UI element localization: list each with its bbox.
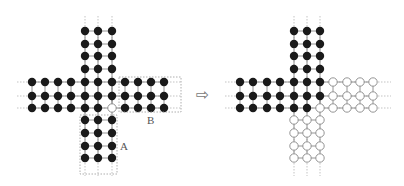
node-filled [290,52,298,60]
node-filled [147,78,155,86]
node-filled [94,142,102,150]
node-filled [303,78,311,86]
node-filled [236,92,244,100]
node-filled [54,104,62,112]
node-open [343,104,351,112]
node-filled [263,104,271,112]
node-filled [147,104,155,112]
node-filled [303,52,311,60]
node-filled [316,78,324,86]
node-filled [263,92,271,100]
node-filled [290,104,298,112]
node-open [316,129,324,137]
node-filled [94,92,102,100]
node-filled [81,154,89,162]
node-filled [263,78,271,86]
node-open [329,104,337,112]
node-open [356,104,364,112]
node-filled [81,129,89,137]
node-filled [28,78,36,86]
node-filled [276,78,284,86]
node-filled [94,78,102,86]
node-filled [316,65,324,73]
node-open [290,116,298,124]
node-open [356,92,364,100]
node-filled [94,129,102,137]
node-filled [316,92,324,100]
node-open [303,116,311,124]
node-filled [67,78,75,86]
node-filled [147,92,155,100]
node-filled [160,78,168,86]
node-filled [290,65,298,73]
node-filled [94,27,102,35]
node-filled [290,27,298,35]
node-filled [108,142,116,150]
node-filled [276,92,284,100]
node-filled [249,92,257,100]
node-open [343,92,351,100]
node-filled [108,116,116,124]
node-filled [81,27,89,35]
node-filled [54,92,62,100]
node-filled [121,104,129,112]
node-filled [121,78,129,86]
node-filled [108,92,116,100]
node-open [369,92,377,100]
node-filled [28,92,36,100]
node-filled [160,92,168,100]
node-open [290,129,298,137]
node-filled [41,104,49,112]
node-open [369,104,377,112]
node-filled [290,78,298,86]
node-filled [303,65,311,73]
node-filled [249,104,257,112]
node-open [356,78,364,86]
node-filled [303,104,311,112]
node-filled [290,92,298,100]
node-filled [108,154,116,162]
node-filled [81,92,89,100]
node-filled [303,40,311,48]
node-filled [276,104,284,112]
node-filled [81,142,89,150]
node-open [290,142,298,150]
node-filled [81,104,89,112]
box-b-label: B [147,114,154,126]
node-open [329,78,337,86]
node-filled [94,116,102,124]
node-filled [41,92,49,100]
node-filled [316,27,324,35]
node-open [303,129,311,137]
node-filled [303,92,311,100]
node-filled [303,27,311,35]
node-filled [108,78,116,86]
node-open [369,78,377,86]
node-filled [28,104,36,112]
node-filled [121,92,129,100]
node-filled [67,92,75,100]
node-open [316,154,324,162]
node-open [108,104,116,112]
node-open [343,78,351,86]
node-filled [81,78,89,86]
node-filled [94,154,102,162]
node-filled [236,78,244,86]
node-filled [108,129,116,137]
node-filled [108,27,116,35]
node-filled [134,104,142,112]
node-filled [290,40,298,48]
node-filled [94,52,102,60]
node-filled [81,116,89,124]
node-filled [81,40,89,48]
node-filled [108,52,116,60]
node-open [303,154,311,162]
node-filled [316,40,324,48]
node-open [316,142,324,150]
node-filled [94,65,102,73]
node-filled [134,78,142,86]
node-filled [249,78,257,86]
node-filled [108,40,116,48]
node-open [329,92,337,100]
node-filled [81,52,89,60]
